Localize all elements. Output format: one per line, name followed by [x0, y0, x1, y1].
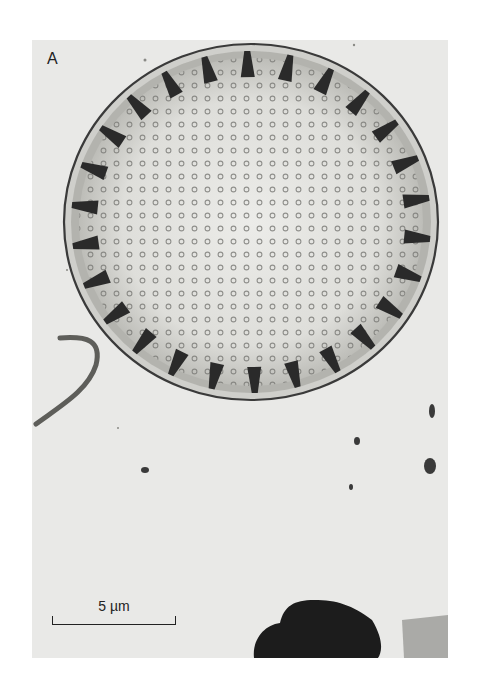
filament	[36, 338, 97, 424]
panel-label: A	[47, 50, 58, 68]
scale-bar-line	[52, 624, 176, 625]
scale-bar-tick-right	[175, 616, 176, 625]
micrograph: A	[32, 40, 448, 658]
debris-large	[254, 600, 381, 658]
scale-bar: 5 µm	[50, 598, 178, 628]
scale-bar-label: 5 µm	[50, 598, 178, 614]
debris-small	[141, 404, 436, 490]
diatom-illustration	[32, 40, 448, 658]
